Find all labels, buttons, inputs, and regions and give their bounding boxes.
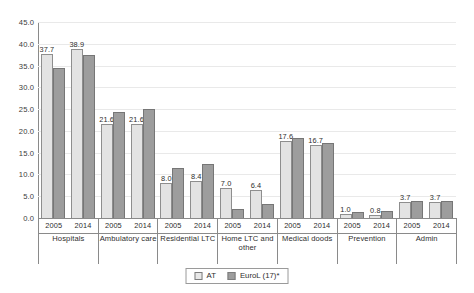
bar-value-label: 3.7 xyxy=(400,193,411,202)
bar-value-label: 37.7 xyxy=(40,45,55,54)
category-cell: 20052014Ambulatory care xyxy=(98,218,159,264)
bar-group: 17.616.7 xyxy=(277,22,337,218)
bar-eurol[interactable] xyxy=(53,68,65,218)
category-cell: 20052014Prevention xyxy=(337,218,398,264)
bar-value-label: 1.0 xyxy=(340,205,351,214)
bar-eurol[interactable] xyxy=(113,112,125,218)
bar-groups: 37.738.921.621.68.08.47.06.417.616.71.00… xyxy=(38,22,456,218)
bar-pair: 8.4 xyxy=(187,22,217,218)
bar-value-label: 3.7 xyxy=(430,193,441,202)
legend-item[interactable]: AT xyxy=(195,271,216,280)
bar-pair: 6.4 xyxy=(247,22,277,218)
bar-at[interactable]: 3.7 xyxy=(429,202,441,218)
bar-eurol[interactable] xyxy=(143,109,155,218)
bar-at[interactable]: 37.7 xyxy=(41,54,53,218)
bar-group: 37.738.9 xyxy=(38,22,98,218)
category-axis-table: 20052014Hospitals20052014Ambulatory care… xyxy=(38,218,456,264)
x-axis-year-label: 2014 xyxy=(248,218,277,233)
y-axis-tick-label: 20.0 xyxy=(0,126,34,135)
bar-pair: 21.6 xyxy=(98,22,128,218)
bar-at[interactable]: 6.4 xyxy=(250,190,262,218)
bar-eurol[interactable] xyxy=(411,201,423,218)
bar-eurol[interactable] xyxy=(172,168,184,218)
y-axis: 45.040.035.030.025.020.015.010.05.00.0 xyxy=(0,22,38,218)
x-axis-category-label: Prevention xyxy=(338,233,397,264)
bar-value-label: 38.9 xyxy=(69,40,84,49)
plot-area: 37.738.921.621.68.08.47.06.417.616.71.00… xyxy=(38,22,456,218)
y-axis-tick-label: 35.0 xyxy=(0,61,34,70)
bar-eurol[interactable] xyxy=(83,55,95,218)
x-axis-year-label: 2005 xyxy=(338,218,367,233)
category-cell: 20052014Medical doods xyxy=(277,218,338,264)
x-axis-year-label: 2005 xyxy=(99,218,128,233)
x-axis-year-label: 2014 xyxy=(307,218,336,233)
x-axis-year-label: 2014 xyxy=(367,218,396,233)
bar-eurol[interactable] xyxy=(232,209,244,218)
bar-at[interactable]: 38.9 xyxy=(71,49,83,218)
x-axis-year-label: 2005 xyxy=(278,218,307,233)
x-axis-year-label: 2014 xyxy=(188,218,217,233)
category-year-labels: 20052014 xyxy=(158,218,217,233)
y-axis-tick-label: 45.0 xyxy=(0,18,34,27)
legend-item[interactable]: EuroL (17)* xyxy=(228,271,280,280)
category-cell: 20052014Admin xyxy=(396,218,457,264)
bar-pair: 3.7 xyxy=(426,22,456,218)
x-axis-category-label: Medical doods xyxy=(278,233,337,264)
x-axis-year-label: 2005 xyxy=(39,218,68,233)
category-cell: 20052014Home LTC and other xyxy=(217,218,278,264)
x-axis-category-label: Residential LTC xyxy=(158,233,217,264)
x-axis-year-label: 2005 xyxy=(218,218,247,233)
x-axis-year-label: 2014 xyxy=(68,218,97,233)
bar-pair: 16.7 xyxy=(307,22,337,218)
category-year-labels: 20052014 xyxy=(278,218,337,233)
bar-pair: 7.0 xyxy=(217,22,247,218)
bar-at[interactable]: 3.7 xyxy=(399,202,411,218)
bar-eurol[interactable] xyxy=(262,204,274,218)
bar-pair: 3.7 xyxy=(396,22,426,218)
bar-at[interactable]: 17.6 xyxy=(280,141,292,218)
category-year-labels: 20052014 xyxy=(39,218,98,233)
x-axis-category-label: Hospitals xyxy=(39,233,98,264)
bar-eurol[interactable] xyxy=(441,201,453,218)
bar-value-label: 6.4 xyxy=(251,181,262,190)
y-axis-tick-label: 25.0 xyxy=(0,105,34,114)
category-axis-divider xyxy=(38,233,456,234)
legend-label: AT xyxy=(207,271,216,280)
x-axis-year-label: 2014 xyxy=(427,218,456,233)
bar-group: 21.621.6 xyxy=(98,22,158,218)
bar-value-label: 8.4 xyxy=(191,172,202,181)
x-axis-year-label: 2014 xyxy=(128,218,157,233)
y-axis-tick-label: 10.0 xyxy=(0,170,34,179)
bar-value-label: 0.8 xyxy=(370,206,381,215)
bar-at[interactable]: 16.7 xyxy=(310,145,322,218)
category-year-labels: 20052014 xyxy=(218,218,277,233)
bar-at[interactable]: 8.4 xyxy=(190,181,202,218)
y-axis-tick-label: 15.0 xyxy=(0,148,34,157)
bar-eurol[interactable] xyxy=(292,138,304,218)
bar-eurol[interactable] xyxy=(322,143,334,218)
bar-pair: 37.7 xyxy=(38,22,68,218)
bar-group: 1.00.8 xyxy=(337,22,397,218)
bar-at[interactable]: 21.6 xyxy=(131,124,143,218)
bar-eurol[interactable] xyxy=(202,164,214,218)
bar-value-label: 8.0 xyxy=(161,174,172,183)
bar-pair: 38.9 xyxy=(68,22,98,218)
category-cell: 20052014Residential LTC xyxy=(157,218,218,264)
bar-group: 7.06.4 xyxy=(217,22,277,218)
bar-at[interactable]: 8.0 xyxy=(160,183,172,218)
bar-group: 3.73.7 xyxy=(396,22,456,218)
x-axis-category-label: Home LTC and other xyxy=(218,233,277,264)
chart-legend: ATEuroL (17)* xyxy=(186,268,289,284)
category-year-labels: 20052014 xyxy=(338,218,397,233)
x-axis-category-label: Admin xyxy=(397,233,456,264)
bar-at[interactable]: 7.0 xyxy=(220,188,232,218)
bar-pair: 1.0 xyxy=(337,22,367,218)
legend-swatch-icon xyxy=(228,272,236,280)
y-axis-tick-label: 0.0 xyxy=(0,214,34,223)
y-axis-tick-label: 5.0 xyxy=(0,192,34,201)
category-year-labels: 20052014 xyxy=(397,218,456,233)
category-year-labels: 20052014 xyxy=(99,218,158,233)
bar-at[interactable]: 21.6 xyxy=(101,124,113,218)
y-axis-tick-label: 30.0 xyxy=(0,83,34,92)
bar-pair: 21.6 xyxy=(128,22,158,218)
